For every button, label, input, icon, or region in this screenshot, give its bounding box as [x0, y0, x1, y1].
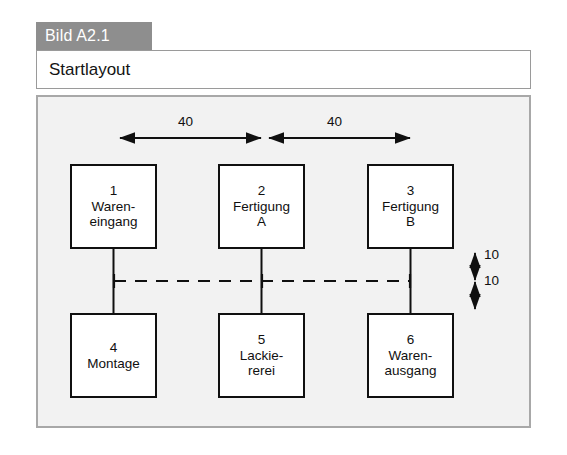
process-box-2-line-1: Fertigung [233, 199, 290, 215]
process-box-2[interactable]: 2 Fertigung A [218, 164, 305, 249]
process-box-5-line-2: rerei [248, 363, 275, 379]
process-box-5-id: 5 [258, 332, 266, 348]
process-box-6-line-1: Waren- [389, 348, 433, 364]
figure-tab: Bild A2.1 [36, 22, 152, 50]
process-box-3-id: 3 [407, 183, 415, 199]
process-box-5-line-1: Lackie- [240, 348, 284, 364]
process-box-3[interactable]: 3 Fertigung B [367, 164, 454, 249]
process-box-4-id: 4 [110, 340, 118, 356]
process-box-6-line-2: ausgang [385, 363, 437, 379]
dimension-label-right-lower: 10 [484, 273, 499, 288]
process-box-3-line-1: Fertigung [382, 199, 439, 215]
figure-tab-label: Bild A2.1 [45, 27, 110, 45]
process-box-1-line-1: Waren- [92, 199, 136, 215]
process-box-1-id: 1 [110, 183, 118, 199]
process-box-4[interactable]: 4 Montage [70, 313, 157, 398]
dimension-label-top-right: 40 [327, 114, 342, 129]
centerline-dashed [114, 274, 410, 288]
process-box-6[interactable]: 6 Waren- ausgang [367, 313, 454, 398]
process-box-1-line-2: eingang [89, 214, 137, 230]
process-box-2-line-2: A [257, 214, 266, 230]
process-box-4-line-1: Montage [87, 356, 140, 372]
process-box-1[interactable]: 1 Waren- eingang [70, 164, 157, 249]
figure-title: Startlayout [49, 60, 130, 80]
dimension-label-top-left: 40 [178, 114, 193, 129]
dimension-label-right-upper: 10 [484, 247, 499, 262]
figure-title-bar: Startlayout [36, 50, 531, 89]
process-box-6-id: 6 [407, 332, 415, 348]
diagram-panel: 40 40 10 10 1 Waren- eingang 2 Fertigung… [36, 95, 531, 428]
process-box-2-id: 2 [258, 183, 266, 199]
process-box-5[interactable]: 5 Lackie- rerei [218, 313, 305, 398]
process-box-3-line-2: B [406, 214, 415, 230]
